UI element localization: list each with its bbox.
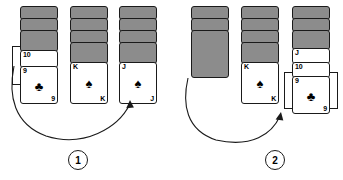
move-arrow-2-head bbox=[276, 112, 284, 120]
arrow-overlay bbox=[0, 0, 343, 180]
step-badge-1: 1 bbox=[68, 150, 88, 170]
move-arrow-2 bbox=[186, 78, 280, 142]
move-arrow-1 bbox=[12, 66, 130, 140]
move-arrow-1-head bbox=[126, 100, 134, 108]
step-badge-2: 2 bbox=[265, 150, 285, 170]
diagram-canvas: 10 9 ♣ 9 K ♠ K J ♠ J bbox=[0, 0, 343, 180]
